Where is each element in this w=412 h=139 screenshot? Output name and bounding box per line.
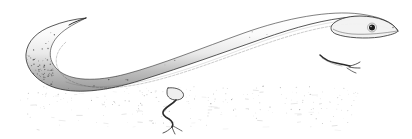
lizard-illustration: Black and white stippled line drawing of… [0, 0, 412, 139]
nostril-icon [392, 27, 393, 28]
eye-highlight [370, 26, 372, 28]
eye-icon [369, 25, 375, 31]
illustration-canvas: Black and white stippled line drawing of… [0, 0, 412, 139]
